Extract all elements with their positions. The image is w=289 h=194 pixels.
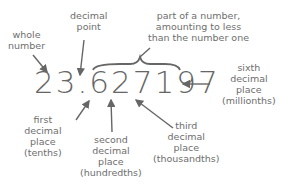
arrow-first-place: [76, 101, 89, 120]
arrow-second-place: [111, 100, 112, 132]
connector-fractional-label: [140, 48, 150, 57]
arrow-third-place: [136, 100, 173, 128]
arrows-layer: [0, 0, 289, 194]
brace-fractional-part: [93, 57, 180, 70]
arrow-whole-number: [33, 55, 47, 72]
arrow-decimal-point: [80, 40, 84, 75]
